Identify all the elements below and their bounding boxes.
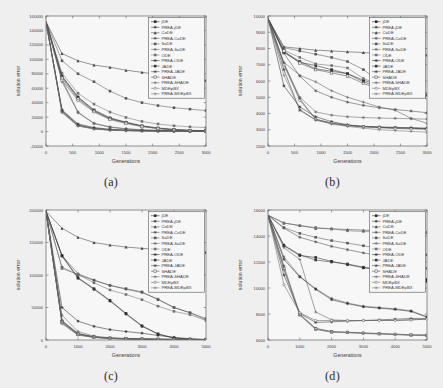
legend-item-label[interactable]: JADE	[162, 64, 173, 69]
legend-item-label[interactable]: PREA-SHADE	[162, 80, 189, 85]
y-tick-label: 40000	[32, 100, 44, 105]
legend-item-label[interactable]: PREA-SaDE	[162, 47, 186, 52]
x-tick-label: 4000	[391, 344, 401, 349]
x-tick-label: 1000	[295, 344, 305, 349]
legend-item-label[interactable]: CoDE	[162, 30, 173, 35]
y-tick-label: 6000	[256, 79, 266, 84]
legend-item-label[interactable]: JADE	[383, 258, 394, 263]
x-tick-label: 2000	[105, 344, 115, 349]
legend-item-label[interactable]: MDEpBX	[383, 86, 400, 91]
x-tick-label: 500	[291, 150, 299, 155]
y-tick-label: 60000	[32, 86, 44, 91]
x-tick-label: 2000	[369, 150, 379, 155]
x-tick-label: 1500	[343, 150, 353, 155]
y-tick-label: 50000	[32, 305, 44, 310]
legend-item-label[interactable]: PREA-jDE	[383, 219, 403, 224]
y-axis-label: solution error	[15, 260, 21, 291]
y-axis-label: solution error	[237, 260, 243, 291]
y-tick-label: 150000	[29, 240, 43, 245]
legend-item-label[interactable]: PREA-JADE	[162, 263, 186, 268]
y-tick-label: 160000	[29, 14, 43, 19]
y-tick-label: 16000	[254, 208, 266, 213]
x-tick-label: 3000	[359, 344, 369, 349]
legend-item-label[interactable]: ODE	[162, 53, 171, 58]
legend-item-label[interactable]: ODE	[383, 53, 392, 58]
legend-item-label[interactable]: SHADE	[383, 75, 398, 80]
legend-item-label[interactable]: PREA-CoDE	[162, 36, 186, 41]
x-tick-label: 0	[45, 344, 48, 349]
legend-item-label[interactable]: PREA-MDEpBX	[162, 285, 192, 290]
legend-item-label[interactable]: PREA-SaDE	[383, 241, 407, 246]
legend-item-label[interactable]: PREA-SaDE	[383, 47, 407, 52]
legend-item-label[interactable]: jDE	[161, 19, 169, 24]
legend-item-label[interactable]: jDE	[382, 19, 390, 24]
figure-panel-grid: 050010001500200025003000-200000200004000…	[0, 0, 443, 388]
x-axis-label: Generations	[333, 352, 362, 358]
panel-c: 0100020003000400050000500001000001500002…	[0, 194, 222, 388]
legend-item-label[interactable]: PREA-CoDE	[383, 230, 407, 235]
legend-item-label[interactable]: SaDE	[162, 41, 173, 46]
x-tick-label: 1000	[73, 344, 83, 349]
x-tick-label: 1000	[316, 150, 326, 155]
legend-item-label[interactable]: PREA-SaDE	[162, 241, 186, 246]
chart-canvas: 0100020003000400050006000800010000120001…	[222, 194, 443, 388]
legend-item-label[interactable]: PREA-ODE	[162, 58, 184, 63]
legend-item-label[interactable]: PREA-jDE	[383, 25, 403, 30]
legend-item-label[interactable]: CoDE	[162, 224, 173, 229]
y-tick-label: 8000	[256, 46, 266, 51]
legend-item-label[interactable]: MDEpBX	[383, 280, 400, 285]
legend-item-label[interactable]: PREA-CoDE	[383, 36, 407, 41]
legend-item-label[interactable]: PREA-CoDE	[162, 230, 186, 235]
legend-item-label[interactable]: SaDE	[383, 41, 394, 46]
y-tick-label: 120000	[29, 42, 43, 47]
legend-item-label[interactable]: PREA-MDEpBX	[383, 91, 413, 96]
legend-item-label[interactable]: SaDE	[383, 235, 394, 240]
legend-item-label[interactable]: SHADE	[162, 75, 177, 80]
legend-item-label[interactable]: PREA-MDEpBX	[383, 285, 413, 290]
legend-item-label[interactable]: JADE	[162, 258, 173, 263]
x-tick-label: 0	[267, 344, 270, 349]
legend-item-label[interactable]: PREA-SHADE	[383, 80, 410, 85]
y-tick-label: 12000	[254, 260, 266, 265]
legend-item-label[interactable]: JADE	[383, 64, 394, 69]
y-tick-label: 140000	[29, 28, 43, 33]
legend-item-label[interactable]: ODE	[162, 247, 171, 252]
y-tick-label: 100000	[29, 57, 43, 62]
legend-item-label[interactable]: CoDE	[383, 30, 394, 35]
x-tick-label: 2500	[396, 150, 406, 155]
legend-item-label[interactable]: MDEpBX	[162, 280, 179, 285]
panel-caption-a: (a)	[0, 175, 222, 190]
y-tick-label: 6000	[256, 338, 266, 343]
y-tick-label: 2000	[256, 144, 266, 149]
x-tick-label: 5000	[422, 344, 432, 349]
y-tick-label: 8000	[256, 312, 266, 317]
chart-canvas: 0500100015002000250030002000300040005000…	[222, 0, 443, 194]
x-tick-label: 4000	[169, 344, 179, 349]
legend-item-label[interactable]: jDE	[161, 213, 169, 218]
y-tick-label: -20000	[30, 144, 43, 149]
legend-item-label[interactable]: PREA-JADE	[162, 69, 186, 74]
legend-item-label[interactable]: PREA-ODE	[383, 58, 405, 63]
legend-item-label[interactable]: PREA-SHADE	[162, 274, 189, 279]
legend-item-label[interactable]: SHADE	[383, 269, 398, 274]
chart-canvas: 050010001500200025003000-200000200004000…	[0, 0, 222, 194]
legend-item-label[interactable]: MDEpBX	[162, 86, 179, 91]
panel-b: 0500100015002000250030002000300040005000…	[222, 0, 443, 194]
legend-item-label[interactable]: PREA-jDE	[162, 219, 182, 224]
legend-item-label[interactable]: PREA-ODE	[162, 252, 184, 257]
legend-item-label[interactable]: ODE	[383, 247, 392, 252]
legend-item-label[interactable]: PREA-JADE	[383, 263, 407, 268]
legend-item-label[interactable]: PREA-JADE	[383, 69, 407, 74]
x-tick-label: 0	[267, 150, 270, 155]
legend-item-label[interactable]: PREA-jDE	[162, 25, 182, 30]
legend-item-label[interactable]: CoDE	[383, 224, 394, 229]
legend-item-label[interactable]: PREA-ODE	[383, 252, 405, 257]
y-tick-label: 4000	[256, 111, 266, 116]
legend-item-label[interactable]: jDE	[382, 213, 390, 218]
x-tick-label: 3000	[137, 344, 147, 349]
legend-item-label[interactable]: PREA-SHADE	[383, 274, 410, 279]
legend-item-label[interactable]: SaDE	[162, 235, 173, 240]
legend-item-label[interactable]: SHADE	[162, 269, 177, 274]
x-tick-label: 1500	[121, 150, 131, 155]
legend-item-label[interactable]: PREA-MDEpBX	[162, 91, 192, 96]
